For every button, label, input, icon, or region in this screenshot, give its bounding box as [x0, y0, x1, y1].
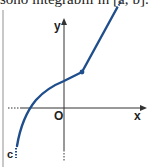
- junction-point: [80, 70, 85, 75]
- curve-log-segment: [17, 72, 82, 146]
- curve-linear-segment: [82, 8, 117, 72]
- x-axis-arrow-icon: [140, 105, 147, 111]
- x-axis-label: x: [134, 109, 141, 123]
- origin-label: O: [54, 109, 63, 123]
- y-axis-arrow-icon: [61, 18, 67, 25]
- function-graph: y x O c: [0, 0, 149, 167]
- curve-dotted-end: [117, 0, 122, 8]
- y-axis-label: y: [54, 19, 61, 33]
- point-c-label: c: [7, 148, 13, 160]
